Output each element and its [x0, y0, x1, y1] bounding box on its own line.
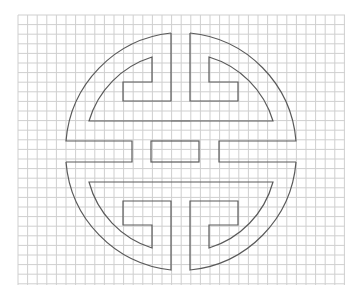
grid-lines — [18, 15, 345, 285]
top-right-block — [190, 33, 273, 121]
top-right-outer-arc — [190, 33, 296, 162]
graph-paper-canvas — [0, 0, 359, 302]
top-left-outer-arc — [66, 33, 171, 162]
top-left-block — [89, 33, 171, 121]
